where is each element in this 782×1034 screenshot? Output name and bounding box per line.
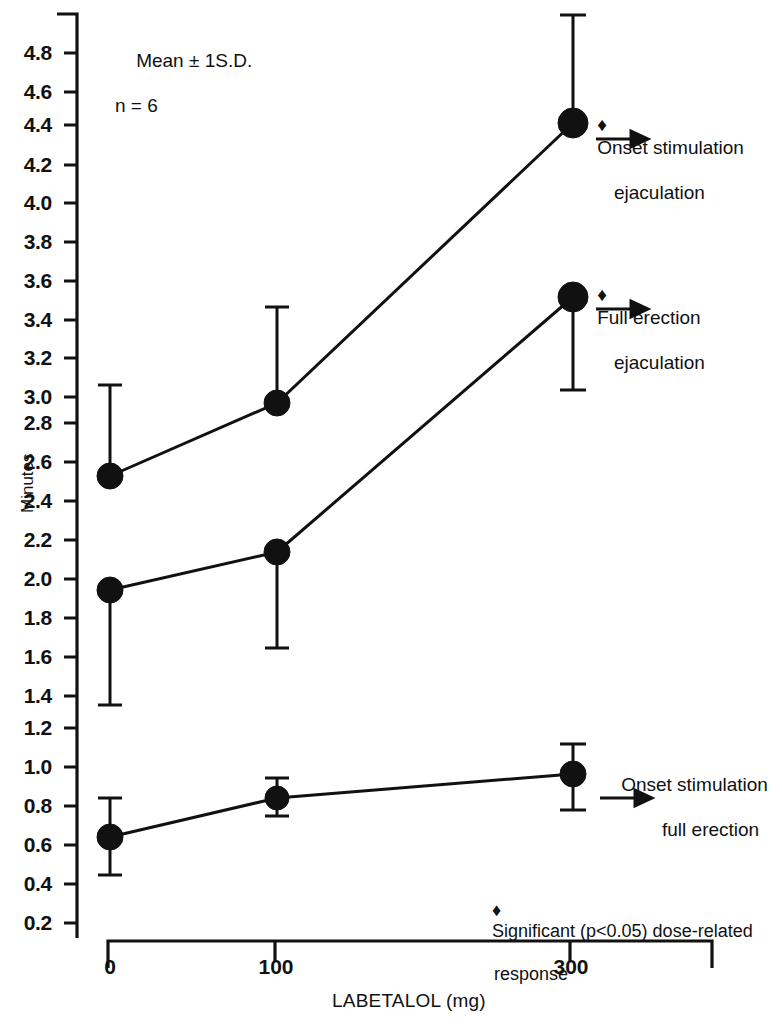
x-tick-label: 100: [236, 955, 316, 980]
y-tick-label: 1.6: [0, 645, 52, 670]
series-1-annotation: ♦ Onset stimulation ejaculation: [576, 92, 744, 249]
y-axis-title: Minutes: [18, 453, 38, 513]
x-tick-label: 0: [70, 955, 150, 980]
series-2-error-bars: [98, 297, 586, 705]
y-tick-label: 2.2: [0, 528, 52, 553]
series-3-label-line2: full erection: [600, 819, 768, 841]
series-1-line: [110, 123, 573, 476]
series-3-error-bars: [98, 744, 586, 875]
y-tick-label: 2.8: [0, 411, 52, 436]
y-tick-label: 1.0: [0, 755, 52, 780]
y-tick-label: 4.2: [0, 153, 52, 178]
y-tick-label: 4.0: [0, 191, 52, 216]
y-tick-label: 3.0: [0, 385, 52, 410]
series-2-label-line1: Full erection: [597, 307, 701, 328]
series-3-label-line1: Onset stimulation: [621, 774, 768, 795]
y-tick-label: 1.8: [0, 606, 52, 631]
y-tick-label: 1.4: [0, 684, 52, 709]
y-tick-label: 0.8: [0, 794, 52, 819]
significance-diamond-icon: ♦: [597, 114, 607, 135]
y-tick-label: 0.2: [0, 911, 52, 936]
data-point: [97, 463, 123, 489]
significance-diamond-icon: ♦: [597, 284, 607, 305]
series-2: [97, 282, 588, 705]
data-point: [97, 577, 123, 603]
series-1-label-line2: ejaculation: [576, 182, 744, 204]
series-3: [97, 744, 586, 875]
data-point: [560, 761, 586, 787]
figure-container: 4.8 4.6 4.4 4.2 4.0 3.8 3.6 3.4 3.2 3.0 …: [0, 0, 782, 1034]
y-tick-label: 4.8: [0, 41, 52, 66]
data-point: [265, 786, 289, 810]
y-tick-label: 3.8: [0, 230, 52, 255]
y-tick-label: 0.6: [0, 833, 52, 858]
footnote-line2: response: [472, 964, 753, 985]
data-point: [97, 824, 123, 850]
mean-sd-text: Mean ± 1S.D.: [136, 50, 252, 71]
sample-size-text: n = 6: [115, 95, 252, 117]
series-1-label-line1: Onset stimulation: [597, 137, 744, 158]
y-tick-label: 2.0: [0, 567, 52, 592]
y-tick-label: 3.4: [0, 308, 52, 333]
significance-footnote: ♦ Significant (p<0.05) dose-related resp…: [472, 879, 753, 1028]
significance-diamond-icon: ♦: [492, 900, 501, 920]
mean-sd-note: Mean ± 1S.D. n = 6: [115, 28, 252, 162]
y-axis: [57, 14, 77, 938]
footnote-line1: Significant (p<0.05) dose-related: [492, 921, 753, 941]
data-point: [264, 539, 290, 565]
series-3-annotation: Onset stimulation full erection: [600, 752, 768, 886]
series-2-label-line2: ejaculation: [576, 352, 705, 374]
series-2-annotation: ♦ Full erection ejaculation: [576, 262, 705, 419]
y-tick-label: 3.6: [0, 269, 52, 294]
series-3-line: [110, 774, 573, 837]
y-tick-label: 1.2: [0, 716, 52, 741]
y-tick-label: 4.6: [0, 80, 52, 105]
y-tick-label: 3.2: [0, 346, 52, 371]
data-point: [264, 390, 290, 416]
y-tick-label: 0.4: [0, 872, 52, 897]
y-tick-marks: [64, 53, 77, 923]
y-tick-label: 4.4: [0, 113, 52, 138]
